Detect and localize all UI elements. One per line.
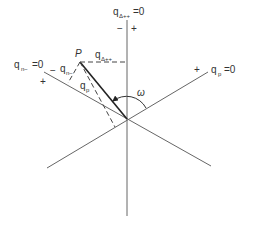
svg-text:q: q [95,49,101,60]
axis-nminus-label: q n− =0 [14,59,44,72]
svg-text:=0: =0 [224,64,236,75]
point-p-label: P [75,48,82,59]
svg-text:n−: n− [66,70,73,76]
svg-text:q: q [60,63,66,74]
svg-text:=0: =0 [133,6,145,17]
angle-omega-label: ω [137,87,145,98]
svg-text:n−: n− [21,66,28,72]
svg-text:p: p [218,71,222,77]
axis-delta-minus-sign: − [117,23,123,34]
projection-p-dashed [80,62,115,127]
svg-text:q: q [80,80,86,91]
svg-text:q: q [211,64,217,75]
svg-text:p: p [86,87,90,93]
axis-delta-label: q Δ++ =0 [113,6,145,19]
projection-nminus-label: q n− [60,63,73,76]
projection-p-label: q p [80,80,90,93]
axis-nminus-plus-sign: + [40,76,46,87]
svg-text:Δ++: Δ++ [101,56,113,62]
svg-text:q: q [113,6,119,17]
svg-text:Δ++: Δ++ [119,13,131,19]
svg-text:=0: =0 [32,59,44,70]
axis-p-plus-sign: + [194,64,200,75]
axis-nminus-minus-sign: − [50,65,56,76]
svg-text:q: q [14,59,20,70]
projection-delta-label: q Δ++ [95,49,113,62]
axis-delta-plus-sign: + [131,23,137,34]
axis-p-label: q p =0 [211,64,236,77]
dalitz-projection-diagram: q Δ++ =0 − + q n− =0 − + q p =0 + P q Δ+… [0,0,253,229]
angle-omega-arc [113,96,146,108]
